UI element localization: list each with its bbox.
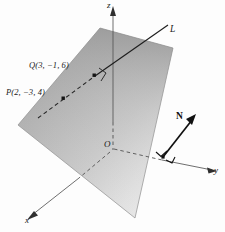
origin-label: O — [104, 140, 111, 149]
point-label-P: P(2, −3, 4) — [6, 88, 45, 97]
normal-vector-label: N — [176, 112, 183, 122]
point-label-Q: Q(3, −1, 6) — [29, 61, 69, 70]
z-axis-label: z — [107, 1, 111, 10]
normal-vector-layer — [0, 0, 225, 232]
right-angle-marks-at-foot — [156, 151, 175, 163]
y-axis-label: y — [214, 166, 218, 175]
normal-vector-arrowhead — [186, 114, 196, 125]
x-axis-label: x — [25, 216, 29, 225]
figure-3d-plane-line: z y x O L Q(3, −1, 6) P(2, −3, 4) N — [0, 0, 225, 232]
normal-vector-foot-point — [161, 155, 164, 158]
normal-vector-shaft — [163, 120, 192, 157]
line-L-label: L — [170, 25, 175, 35]
